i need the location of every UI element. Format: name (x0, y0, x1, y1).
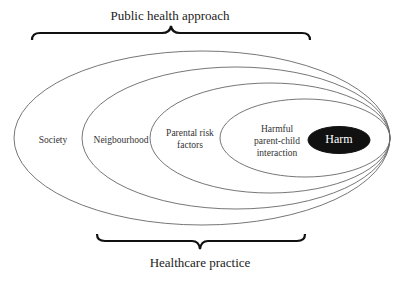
label-parental-risk-factors: Parental risk factors (160, 128, 220, 152)
label-harm: Harm (313, 132, 365, 147)
label-society: Society (28, 135, 78, 147)
label-neighbourhood: Neigbourhood (88, 135, 154, 147)
bottom-bracket-label: Healthcare practice (135, 255, 265, 271)
bottom-bracket (97, 234, 305, 249)
label-harmful-interaction: Harmful parent-child interaction (248, 124, 306, 160)
top-bracket (32, 26, 310, 40)
top-bracket-label: Public health approach (95, 8, 245, 24)
